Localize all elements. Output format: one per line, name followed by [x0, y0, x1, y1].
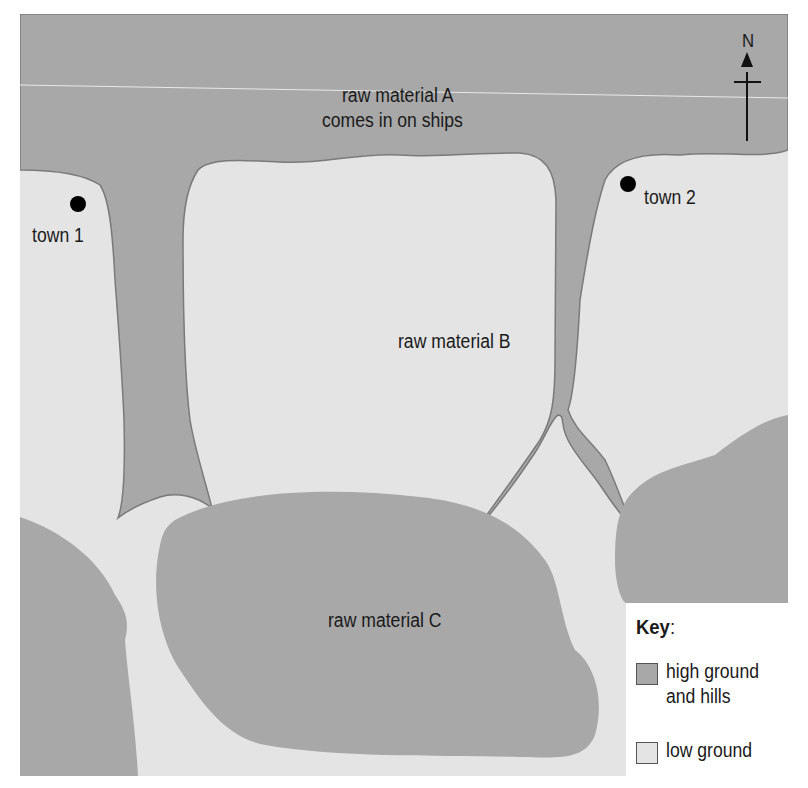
town-1-label: town 1	[32, 224, 84, 247]
high-ground-swatch	[636, 663, 658, 685]
town-2-label: town 2	[644, 186, 696, 209]
town-1-dot	[70, 196, 86, 212]
sea-label-line2: comes in on ships	[322, 109, 463, 132]
map-key: Key: high ground and hills low ground	[626, 603, 796, 778]
sea-label-line1: raw material A	[342, 84, 454, 107]
key-title: Key:	[636, 615, 675, 639]
high-ground-label-line1: high ground	[666, 659, 759, 683]
low-ground-label: low ground	[666, 738, 752, 762]
raw-material-b-label: raw material B	[398, 330, 510, 353]
north-label: N	[742, 30, 754, 52]
town-2-dot	[620, 176, 636, 192]
low-ground-swatch	[636, 742, 658, 764]
raw-material-c-label: raw material C	[328, 609, 441, 632]
high-ground-label-line2: and hills	[666, 684, 731, 708]
